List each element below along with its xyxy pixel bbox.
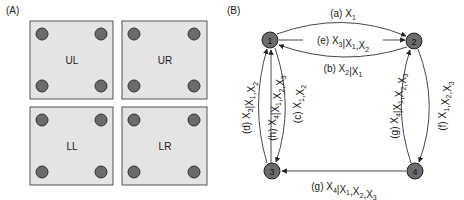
sensor-dot (188, 114, 200, 126)
sensor-dot (36, 166, 48, 178)
svg-text:1: 1 (267, 36, 272, 46)
square-label: LL (66, 141, 78, 152)
svg-text:4: 4 (412, 167, 417, 177)
square-label: LR (159, 141, 172, 152)
sensor-dot (128, 80, 140, 92)
sensor-dot (95, 80, 107, 92)
square-label: UL (66, 55, 79, 66)
edge-label-a: (a) X1 (330, 8, 356, 21)
node-2: 2 (406, 33, 422, 49)
edge-a (277, 22, 406, 36)
edge-label-g-bottom: (g) X4|X1,X2,X3 (311, 181, 377, 200)
edge-g-up (401, 50, 411, 163)
edge-label-h: (h) X4|X1,X2,X3 (267, 75, 287, 141)
edge-label-c: (c) X1,X2 (292, 85, 307, 123)
panel-a-label: (A) (6, 5, 19, 16)
sensor-dot (95, 166, 107, 178)
sensor-dot (95, 28, 107, 40)
edge-d (259, 49, 268, 163)
sensor-dot (128, 28, 140, 40)
sensor-dot (36, 28, 48, 40)
figure: (A) UL UR LL LR (B) (0, 0, 464, 200)
sensor-dot (188, 166, 200, 178)
sensor-dot (188, 80, 200, 92)
square-lr: LR (122, 107, 207, 185)
svg-text:3: 3 (269, 167, 274, 177)
square-ll: LL (30, 107, 113, 185)
node-3: 3 (264, 163, 280, 179)
edge-label-d: (d) X3|X1,X2 (241, 82, 259, 134)
sensor-dot (36, 114, 48, 126)
node-4: 4 (407, 163, 423, 179)
edge-label-g-up: (g) X4|X1,X2,X3 (389, 73, 409, 139)
sensor-dot (188, 28, 200, 40)
sensor-dot (128, 166, 140, 178)
svg-text:2: 2 (411, 37, 416, 47)
panel-b-label: (B) (227, 5, 240, 16)
edge-label-b: (b) X2|X1 (324, 63, 363, 78)
edge-label-f: (f) X1,X2,X3 (437, 81, 455, 131)
sensor-dot (128, 114, 140, 126)
edge-f (418, 49, 429, 162)
square-label: UR (158, 55, 172, 66)
square-ul: UL (30, 21, 113, 99)
square-ur: UR (122, 21, 207, 99)
node-1: 1 (262, 32, 278, 48)
sensor-dot (36, 80, 48, 92)
sensor-dot (95, 114, 107, 126)
